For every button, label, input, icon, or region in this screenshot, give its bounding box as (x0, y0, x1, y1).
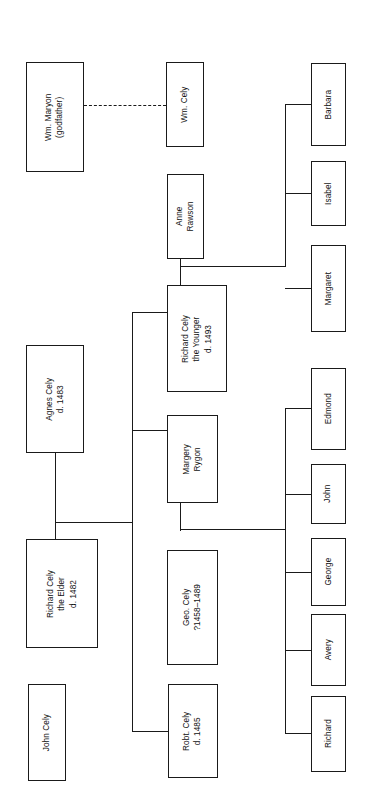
anne-union-bus (180, 266, 286, 267)
person-label-robt-cely: Robt. Celyd. 1485 (182, 711, 205, 750)
children-bus-lower (285, 408, 286, 734)
person-box-margery-rygon[interactable]: MargeryRygon (167, 415, 218, 503)
person-label-line: Richard Cely (45, 569, 56, 617)
person-box-george[interactable]: George (311, 538, 346, 606)
person-label-line: d. 1493 (203, 314, 214, 362)
person-box-robt-cely[interactable]: Robt. Celyd. 1485 (168, 684, 218, 778)
person-box-richard-cely-the-elder[interactable]: Richard Celythe Elderd. 1482 (26, 539, 98, 648)
person-label-geo-cely: Geo. Cely?1458–1489 (181, 584, 204, 631)
marriage-drop-elder (55, 453, 56, 539)
person-label-line: d. 1485 (193, 711, 204, 750)
person-label-line: d. 1482 (68, 569, 79, 617)
anne-drop (180, 259, 181, 286)
person-box-isabel[interactable]: Isabel (311, 161, 346, 226)
person-label-line: Wm. Cely (179, 86, 190, 122)
person-label-line: Geo. Cely (181, 584, 192, 631)
person-label-line: Richard (323, 720, 334, 749)
branch-robt-cely (132, 731, 168, 732)
person-label-line: Isabel (323, 182, 334, 204)
person-label-line: Rygon (192, 444, 203, 475)
person-box-avery[interactable]: Avery (311, 614, 346, 686)
person-label-line: Anne (174, 201, 185, 231)
person-label-line: ?1458–1489 (192, 584, 203, 631)
branch-george (285, 572, 311, 573)
person-label-line: George (323, 558, 334, 586)
branch-barbara (285, 104, 311, 105)
person-label-george: George (323, 558, 334, 586)
branch-richard (285, 733, 311, 734)
family-tree-diagram: Wm. Maryon(godfather)Wm. CelyAnneRawsonB… (0, 0, 382, 809)
branch-john (285, 494, 311, 495)
person-label-line: Barbara (323, 90, 334, 120)
person-label-avery: Avery (323, 639, 334, 660)
margery-union-bus (180, 529, 286, 530)
person-label-line: Robt. Cely (182, 711, 193, 750)
person-label-line: John (323, 485, 334, 503)
children-bus-upper (285, 104, 286, 266)
godfather-link (84, 105, 166, 106)
branch-isabel (285, 193, 311, 194)
person-label-line: Avery (323, 639, 334, 660)
person-box-richard[interactable]: Richard (311, 696, 346, 772)
person-label-line: (godfather) (55, 93, 66, 140)
person-box-wm-cely[interactable]: Wm. Cely (166, 62, 204, 147)
person-label-john-cely: John Cely (41, 714, 52, 751)
branch-edmond (285, 408, 311, 409)
sibling-bus-lower (132, 430, 133, 731)
person-label-line: the Elder (56, 569, 67, 617)
person-label-line: Agnes Cely (44, 378, 55, 421)
person-box-barbara[interactable]: Barbara (311, 63, 346, 146)
person-label-line: the Younger (191, 314, 202, 362)
person-label-anne-rawson: AnneRawson (174, 201, 197, 231)
person-box-edmond[interactable]: Edmond (311, 368, 346, 450)
person-label-wm-cely: Wm. Cely (179, 86, 190, 122)
person-box-wm-maryon[interactable]: Wm. Maryon(godfather) (26, 62, 84, 172)
person-label-john: John (323, 485, 334, 503)
person-box-john-cely[interactable]: John Cely (28, 684, 66, 781)
branch-richard-younger (132, 312, 167, 313)
person-label-agnes-cely: Agnes Celyd. 1483 (44, 378, 67, 421)
person-label-wm-maryon: Wm. Maryon(godfather) (44, 93, 67, 140)
person-label-line: Edmond (323, 393, 334, 424)
person-box-margaret[interactable]: Margaret (311, 245, 346, 332)
person-label-line: Richard Cely (180, 314, 191, 362)
person-label-line: Wm. Maryon (44, 93, 55, 140)
person-label-line: Rawson (186, 201, 197, 231)
person-label-isabel: Isabel (323, 182, 334, 204)
person-label-margery-rygon: MargeryRygon (181, 444, 204, 475)
person-label-richard: Richard (323, 720, 334, 749)
person-box-agnes-cely[interactable]: Agnes Celyd. 1483 (26, 345, 84, 453)
person-label-line: Margery (181, 444, 192, 475)
branch-geo-cely (132, 430, 167, 431)
person-label-richard-cely-the-younger: Richard Celythe Youngerd. 1493 (180, 314, 214, 362)
person-label-richard-cely-the-elder: Richard Celythe Elderd. 1482 (45, 569, 79, 617)
person-label-line: Margaret (323, 272, 334, 306)
person-box-richard-cely-the-younger[interactable]: Richard Celythe Youngerd. 1493 (167, 285, 227, 392)
margery-drop (180, 503, 181, 531)
person-label-line: d. 1483 (55, 378, 66, 421)
person-box-anne-rawson[interactable]: AnneRawson (167, 174, 204, 259)
person-label-barbara: Barbara (323, 90, 334, 120)
person-label-line: John Cely (41, 714, 52, 751)
branch-avery (285, 650, 311, 651)
branch-margaret (285, 288, 311, 289)
person-box-geo-cely[interactable]: Geo. Cely?1458–1489 (167, 550, 218, 665)
marriage-bus-elder (55, 522, 132, 523)
person-label-margaret: Margaret (323, 272, 334, 306)
person-box-john[interactable]: John (311, 464, 346, 524)
person-label-edmond: Edmond (323, 393, 334, 424)
